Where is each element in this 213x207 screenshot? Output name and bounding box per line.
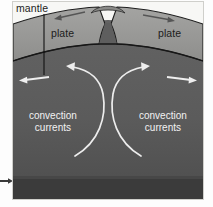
label-plate-right: plate — [158, 28, 181, 39]
convection-left-line-2: currents — [29, 122, 77, 134]
convection-right-line-2: currents — [139, 122, 187, 134]
convection-left-line-1: convection — [29, 110, 77, 122]
label-convection-currents-left: convection currents — [29, 110, 77, 134]
mantle-deep-band — [13, 178, 203, 199]
convection-right-line-1: convection — [139, 110, 187, 122]
diagram-figure: mantle plate plate convection currents c… — [12, 1, 204, 200]
label-convection-currents-right: convection currents — [139, 110, 187, 134]
label-mantle: mantle — [16, 3, 48, 14]
diagram-stage: mantle plate plate convection currents c… — [0, 0, 213, 207]
label-plate-left: plate — [51, 28, 74, 39]
mantle-deep-transition — [13, 176, 203, 179]
